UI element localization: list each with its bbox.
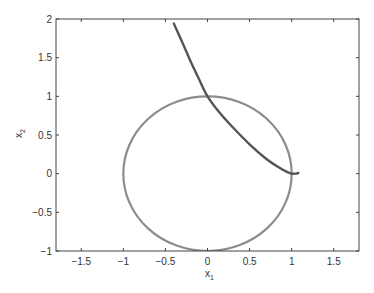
trajectory-series <box>174 24 299 174</box>
x-axis-label: x1 <box>205 268 214 281</box>
x-tick-label: −0.5 <box>156 256 176 267</box>
x-tick-label: 1 <box>289 256 295 267</box>
x-tick-label: −1.5 <box>71 256 91 267</box>
x-tick-label: −1 <box>118 256 130 267</box>
y-axis-label: x2 <box>13 129 26 138</box>
x-tick-label: 1.5 <box>327 256 341 267</box>
y-axis-ticks: −1−0.500.511.52 <box>32 14 359 257</box>
x-tick-label: 0 <box>205 256 211 267</box>
unit-circle-series <box>123 96 291 251</box>
phase-plot: −1.5−1−0.500.511.5 −1−0.500.511.52 x1 x2 <box>0 0 374 293</box>
x-axis-ticks: −1.5−1−0.500.511.5 <box>71 19 341 267</box>
y-tick-label: −0.5 <box>32 207 52 218</box>
y-tick-label: 0 <box>46 168 52 179</box>
x-tick-label: 0.5 <box>243 256 257 267</box>
y-tick-label: −1 <box>41 246 53 257</box>
y-tick-label: 2 <box>46 14 52 25</box>
plot-area <box>123 24 298 251</box>
y-tick-label: 1 <box>46 91 52 102</box>
y-tick-label: 0.5 <box>38 130 52 141</box>
y-tick-label: 1.5 <box>38 52 52 63</box>
axes-box <box>56 19 359 251</box>
